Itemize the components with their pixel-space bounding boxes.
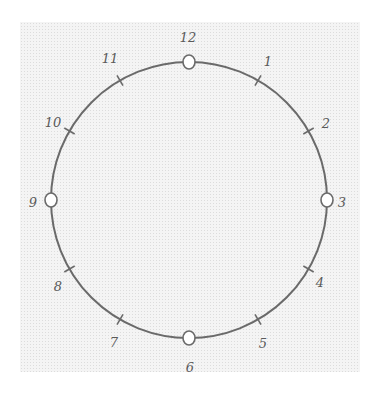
hour-8-tick-marker — [64, 266, 74, 272]
clock-outline — [51, 62, 327, 338]
hour-9-circle-marker — [45, 193, 57, 207]
hour-5-tick-marker — [255, 314, 261, 324]
hour-label-7: 7 — [110, 335, 119, 350]
hour-2-tick-marker — [303, 128, 313, 134]
hour-label-8: 8 — [54, 279, 62, 294]
hour-label-5: 5 — [259, 336, 267, 351]
hour-4-tick-marker — [303, 266, 313, 272]
hour-7-tick-marker — [117, 314, 123, 324]
hour-label-11: 11 — [102, 51, 119, 66]
hour-label-3: 3 — [338, 195, 346, 210]
hour-11-tick-marker — [117, 75, 123, 85]
hour-label-4: 4 — [315, 275, 324, 290]
hour-label-2: 2 — [321, 116, 330, 131]
hour-6-circle-marker — [183, 331, 195, 345]
clock-diagram: 121234567891011 — [0, 0, 377, 395]
hour-10-tick-marker — [64, 128, 74, 134]
hour-label-1: 1 — [264, 54, 272, 69]
hour-1-tick-marker — [255, 75, 261, 85]
hour-labels: 121234567891011 — [29, 30, 346, 375]
hour-markers — [45, 55, 333, 345]
hour-12-circle-marker — [183, 55, 195, 69]
hour-label-12: 12 — [180, 30, 197, 45]
hour-label-6: 6 — [186, 360, 194, 375]
hour-label-10: 10 — [45, 115, 62, 130]
hour-3-circle-marker — [321, 193, 333, 207]
hour-label-9: 9 — [29, 195, 37, 210]
